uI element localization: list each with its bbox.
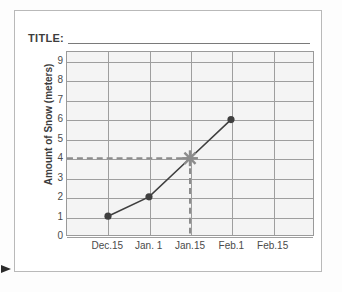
y-axis-tick-label: 9: [49, 56, 63, 66]
worksheet-card: TITLE: Amount of Snow (meters) 987654321…: [14, 10, 322, 272]
data-point-marker: [145, 193, 152, 200]
data-point-marker: [104, 213, 111, 220]
title-input-line[interactable]: [68, 31, 310, 44]
line-series: [67, 52, 313, 236]
y-axis-tick-label: 7: [49, 95, 63, 105]
x-axis-tick-label: Dec.15: [91, 240, 123, 252]
x-axis-tick-label: Feb.15: [257, 240, 288, 252]
y-axis-tick-label: 2: [49, 192, 63, 202]
gridline-horizontal: [67, 237, 313, 238]
right-arrow-icon: [0, 262, 14, 276]
title-row: TITLE:: [28, 26, 310, 44]
y-axis-tick-label: 0: [49, 231, 63, 241]
y-axis-tick-label: 8: [49, 75, 63, 85]
y-axis-tick-label: 6: [49, 114, 63, 124]
plot-area: [66, 51, 314, 236]
data-point-marker: [227, 116, 234, 123]
y-axis-tick-label: 4: [49, 153, 63, 163]
series-line: [108, 120, 231, 217]
y-axis-tick-label: 3: [49, 173, 63, 183]
x-axis-tick-label: Jan. 1: [135, 240, 162, 252]
x-axis-tick-label: Jan.15: [175, 240, 205, 252]
y-axis-tick-label: 1: [49, 212, 63, 222]
y-axis-tick-label: 5: [49, 134, 63, 144]
y-axis-tick-labels: 9876543210: [49, 51, 63, 236]
page-background: TITLE: Amount of Snow (meters) 987654321…: [0, 0, 342, 292]
x-axis-tick-labels: Dec.15Jan. 1Jan.15Feb.1Feb.15: [66, 240, 314, 256]
x-axis-tick-label: Feb.1: [219, 240, 245, 252]
